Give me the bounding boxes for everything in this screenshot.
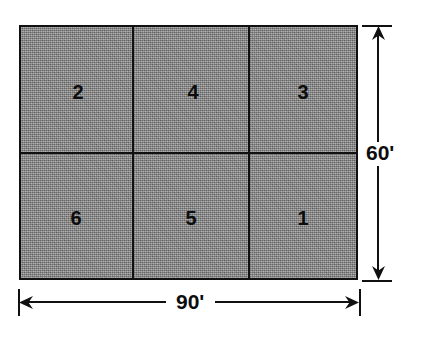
arrow-right-icon bbox=[345, 295, 359, 310]
dimension-line-vertical-lower bbox=[377, 166, 379, 276]
parcel-label-2: 2 bbox=[58, 82, 98, 102]
dimension-label-width: 90' bbox=[170, 291, 210, 312]
parcel-divider-horizontal bbox=[19, 152, 358, 154]
dimension-line-vertical-upper bbox=[377, 31, 379, 143]
arrow-left-icon bbox=[19, 295, 33, 310]
parcel-label-4: 4 bbox=[173, 82, 213, 102]
parcel-label-1: 1 bbox=[283, 208, 323, 228]
arrow-up-icon bbox=[371, 26, 386, 40]
lot-dimension-diagram: 2 4 3 6 5 1 60' 90' bbox=[0, 0, 421, 341]
parcel-label-5: 5 bbox=[171, 208, 211, 228]
dimension-end-tick-right bbox=[359, 289, 361, 316]
arrow-down-icon bbox=[371, 266, 386, 280]
dimension-line-horizontal-right bbox=[215, 301, 355, 303]
parcel-label-3: 3 bbox=[283, 82, 323, 102]
parcel-label-6: 6 bbox=[56, 208, 96, 228]
dimension-label-height: 60' bbox=[366, 142, 394, 163]
dimension-line-horizontal-left bbox=[25, 301, 166, 303]
dimension-extension-tick-bottom bbox=[362, 280, 392, 282]
